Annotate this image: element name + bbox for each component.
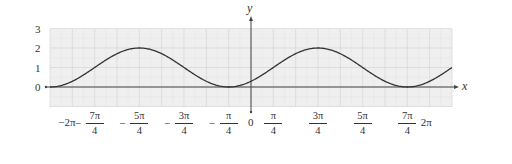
x-tick-denominator: 4 <box>86 124 104 137</box>
x-tick-label: 3π4 <box>309 111 327 136</box>
x-tick-numerator: 3π <box>309 111 327 124</box>
x-tick-minus-sign: − <box>164 117 170 129</box>
y-tick-label-0: 0 <box>35 82 41 93</box>
y-axis-label: y <box>247 1 252 16</box>
x-axis-left-end-dot <box>45 86 47 88</box>
x-tick-denominator: 4 <box>264 124 282 137</box>
x-tick-denominator: 4 <box>309 124 327 137</box>
x-tick-minus-sign: − <box>209 117 215 129</box>
x-tick-numerator: π <box>264 111 282 124</box>
x-tick-denominator: 4 <box>398 124 416 137</box>
x-tick-denominator: 4 <box>220 124 238 137</box>
x-tick-label: 7π4 <box>398 111 416 136</box>
x-tick-minus-sign: − <box>75 117 81 129</box>
x-tick-label: 7π4 <box>86 111 104 136</box>
y-tick-label-1: 1 <box>35 63 41 74</box>
x-tick-label: 5π4 <box>354 111 372 136</box>
x-tick-label: 2π <box>421 117 432 128</box>
x-tick-denominator: 4 <box>130 124 148 137</box>
x-tick-numerator: π <box>220 111 238 124</box>
x-tick-label: −2π <box>58 117 75 128</box>
x-tick-label: π4 <box>220 111 238 136</box>
x-tick-numerator: 5π <box>354 111 372 124</box>
x-tick-numerator: 7π <box>398 111 416 124</box>
x-axis-label: x <box>462 79 467 94</box>
y-tick-label-2: 2 <box>35 43 41 54</box>
x-tick-label: π4 <box>264 111 282 136</box>
y-axis-bottom-end-dot <box>250 111 252 113</box>
x-tick-denominator: 4 <box>175 124 193 137</box>
x-tick-denominator: 4 <box>354 124 372 137</box>
x-tick-numerator: 3π <box>175 111 193 124</box>
y-tick-label-3: 3 <box>35 24 41 35</box>
x-tick-numerator: 5π <box>130 111 148 124</box>
y-axis-arrow-icon <box>249 16 253 21</box>
chart-canvas <box>0 0 512 164</box>
x-tick-label: 3π4 <box>175 111 193 136</box>
x-tick-label: 0 <box>248 117 254 128</box>
x-tick-label: 5π4 <box>130 111 148 136</box>
x-axis-arrow-icon <box>454 85 459 89</box>
x-tick-minus-sign: − <box>119 117 125 129</box>
x-tick-numerator: 7π <box>86 111 104 124</box>
